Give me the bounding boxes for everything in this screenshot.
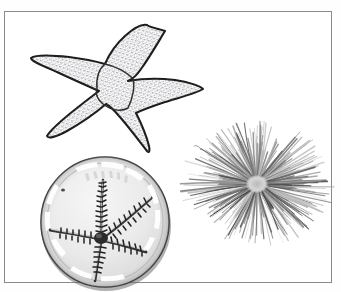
figure-brittle-star — [35, 154, 177, 292]
brittle-star-disc — [94, 232, 108, 244]
brittle-star-photograph — [35, 154, 177, 292]
plate-border-frame — [4, 11, 332, 283]
dish-debris-speck — [61, 188, 65, 191]
sea-urchin-photograph — [177, 108, 341, 256]
dish-vignette — [41, 157, 169, 287]
figure-sea-urchin — [177, 108, 341, 256]
brittle-star-disc-highlight — [96, 234, 102, 238]
sea-urchin-spine — [184, 184, 249, 185]
sea-urchin-test — [246, 175, 268, 193]
sea-urchin-spine — [180, 183, 249, 184]
specimen-plate — [0, 0, 341, 292]
